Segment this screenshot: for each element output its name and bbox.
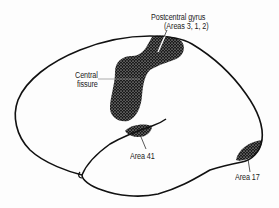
area-41-label: Area 41 bbox=[130, 152, 155, 161]
area-41-pointer bbox=[141, 137, 146, 149]
central-fissure-label-line2: fissure bbox=[77, 80, 98, 89]
area-17-label: Area 17 bbox=[235, 173, 260, 182]
brain-diagram: Postcentral gyrus (Areas 3, 1, 2) Centra… bbox=[0, 0, 279, 208]
postcentral-areas-label: (Areas 3, 1, 2) bbox=[164, 22, 209, 31]
area-17-pointer bbox=[248, 159, 250, 172]
lateral-fissure-line bbox=[82, 119, 166, 175]
postcentral-gyrus-region bbox=[110, 36, 184, 122]
